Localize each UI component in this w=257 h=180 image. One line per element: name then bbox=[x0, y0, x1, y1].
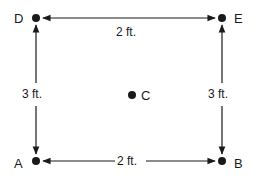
point-a-dot bbox=[32, 157, 40, 165]
point-e-dot bbox=[218, 14, 226, 22]
top-dimension-label: 2 ft. bbox=[116, 26, 136, 38]
left-dimension-label: 3 ft. bbox=[22, 88, 42, 100]
bottom-dimension-label: 2 ft. bbox=[117, 155, 137, 167]
point-d-label: D bbox=[14, 12, 23, 25]
point-b-dot bbox=[218, 157, 226, 165]
point-c-dot bbox=[128, 91, 136, 99]
point-a-label: A bbox=[14, 157, 23, 170]
right-dimension-label: 3 ft. bbox=[208, 88, 228, 100]
rectangle-distance-diagram: D E C A B 2 ft. 2 ft. 3 ft. 3 ft. bbox=[0, 0, 257, 180]
point-c-label: C bbox=[141, 89, 150, 102]
point-b-label: B bbox=[234, 157, 243, 170]
point-e-label: E bbox=[234, 12, 243, 25]
point-d-dot bbox=[32, 14, 40, 22]
